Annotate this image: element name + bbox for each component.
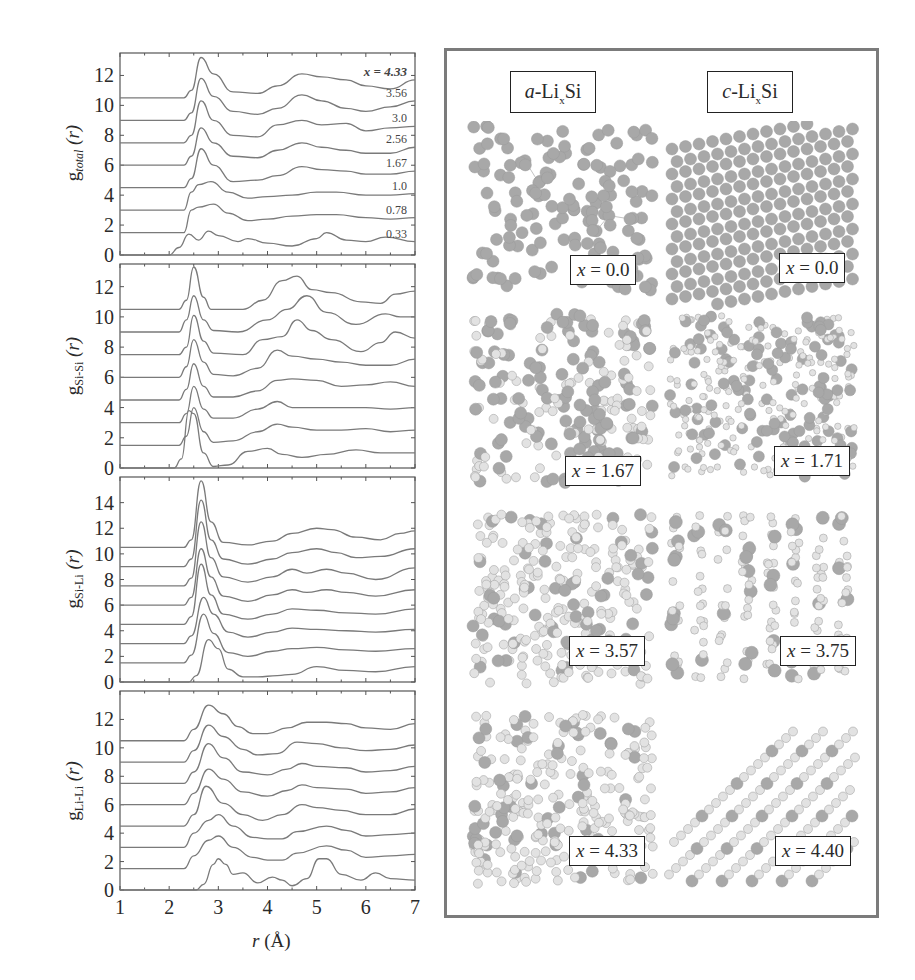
y-tick-label: 10 xyxy=(94,737,114,759)
composition-label: x = 1.67 xyxy=(565,456,641,486)
ylabel-g-li-li: gLi-Li (r) xyxy=(62,746,84,836)
rdf-curve xyxy=(120,640,415,682)
rdf-curve xyxy=(120,296,415,332)
rdf-curve xyxy=(120,836,415,869)
atom-cluster-image xyxy=(662,506,862,696)
structure-amorphous-x1.67: x = 1.67 xyxy=(465,306,665,496)
rdf-curve xyxy=(120,267,415,309)
y-tick-label: 8 xyxy=(104,336,114,358)
rdf-curve xyxy=(120,340,415,378)
rdf-curve xyxy=(120,500,415,567)
rdf-curve xyxy=(120,614,415,663)
y-tick-label: 0 xyxy=(104,879,114,901)
y-tick-label: 4 xyxy=(104,822,114,844)
rdf-curve xyxy=(120,204,415,232)
rdf-curve xyxy=(120,564,415,624)
atom-chains-image xyxy=(662,706,862,896)
composition-label: x = 4.33 xyxy=(569,836,645,866)
y-tick-label: 4 xyxy=(104,620,114,642)
y-tick-label: 12 xyxy=(94,64,114,86)
rdf-curve xyxy=(120,78,415,120)
y-tick-label: 2 xyxy=(104,645,114,667)
composition-curve-label: 3.56 xyxy=(386,86,407,100)
rdf-curve xyxy=(120,522,415,586)
x-tick-label: 2 xyxy=(164,896,174,918)
plot-frame xyxy=(120,264,415,468)
composition-label: x = 4.40 xyxy=(775,836,851,866)
atom-cluster-image xyxy=(465,506,665,696)
composition-curve-label: 2.56 xyxy=(386,132,407,146)
structure-amorphous-x4.33: x = 4.33 xyxy=(465,706,665,896)
rdf-curve xyxy=(120,364,415,400)
y-tick-label: 6 xyxy=(104,794,114,816)
rdf-curve xyxy=(120,411,415,468)
structure-crystalline-x4.40: x = 4.40 xyxy=(662,706,862,896)
composition-label: x = 0.0 xyxy=(570,255,636,285)
rdf-curve xyxy=(120,481,415,548)
y-tick-label: 2 xyxy=(104,851,114,873)
y-tick-label: 10 xyxy=(94,94,114,116)
x-tick-label: 1 xyxy=(115,896,125,918)
y-tick-label: 8 xyxy=(104,765,114,787)
composition-curve-label: 1.67 xyxy=(386,156,407,170)
structure-amorphous-x0: x = 0.0 xyxy=(465,121,665,311)
y-tick-label: 8 xyxy=(104,124,114,146)
y-tick-label: 6 xyxy=(104,594,114,616)
xlabel-r-angstrom: r (Å) xyxy=(252,930,291,952)
composition-label: x = 1.71 xyxy=(774,446,850,476)
y-tick-label: 6 xyxy=(104,154,114,176)
rdf-curve xyxy=(120,705,415,741)
rdf-plots: 024681012x = 4.333.563.02.561.671.00.780… xyxy=(0,0,440,980)
atomic-structures-panel: a-LixSi c-LixSi x = 0.0 x = 0.0 x = 1.67… xyxy=(444,48,879,918)
structure-crystalline-x0: x = 0.0 xyxy=(662,121,862,311)
composition-label: x = 0.0 xyxy=(779,253,845,283)
composition-label: x = 3.57 xyxy=(569,636,645,666)
x-tick-label: 7 xyxy=(410,896,420,918)
rdf-curve xyxy=(120,315,415,354)
rdf-curve xyxy=(120,128,415,165)
y-tick-label: 2 xyxy=(104,214,114,236)
y-tick-label: 4 xyxy=(104,397,114,419)
column-title-crystalline: c-LixSi xyxy=(707,71,793,113)
y-tick-label: 6 xyxy=(104,366,114,388)
y-tick-label: 0 xyxy=(104,457,114,479)
composition-curve-label: x = 4.33 xyxy=(363,64,408,79)
rdf-curve xyxy=(120,725,415,762)
ylabel-g-si-si: gSi-Si (r) xyxy=(62,321,84,411)
rdf-curve xyxy=(120,859,415,890)
rdf-curve xyxy=(120,786,415,826)
rdf-curve xyxy=(120,597,415,643)
x-tick-label: 3 xyxy=(213,896,223,918)
x-tick-label: 6 xyxy=(361,896,371,918)
y-tick-label: 10 xyxy=(94,306,114,328)
ylabel-g-si-li: gSi-Li (r) xyxy=(62,534,84,624)
structure-crystalline-x1.71: x = 1.71 xyxy=(662,306,862,496)
atom-cluster-image xyxy=(465,706,665,896)
composition-curve-label: 1.0 xyxy=(392,179,407,193)
y-tick-label: 12 xyxy=(94,276,114,298)
rdf-curve xyxy=(120,408,415,446)
y-tick-label: 2 xyxy=(104,427,114,449)
y-tick-label: 4 xyxy=(104,184,114,206)
y-tick-label: 10 xyxy=(94,543,114,565)
composition-curve-label: 0.78 xyxy=(386,203,407,217)
y-tick-label: 8 xyxy=(104,569,114,591)
composition-curve-label: 3.0 xyxy=(392,111,407,125)
y-tick-label: 14 xyxy=(94,492,114,514)
composition-curve-label: 0.33 xyxy=(386,227,407,241)
rdf-curve xyxy=(120,744,415,784)
y-tick-label: 0 xyxy=(104,671,114,693)
rdf-curve xyxy=(120,101,415,143)
rdf-curve xyxy=(120,386,415,422)
structure-crystalline-x3.75: x = 3.75 xyxy=(662,506,862,696)
x-tick-label: 4 xyxy=(263,896,273,918)
y-tick-label: 0 xyxy=(104,244,114,266)
x-tick-label: 5 xyxy=(312,896,322,918)
y-tick-label: 12 xyxy=(94,708,114,730)
ylabel-g-total: gtotal (r) xyxy=(62,108,84,198)
structure-amorphous-x3.57: x = 3.57 xyxy=(465,506,665,696)
y-tick-label: 12 xyxy=(94,517,114,539)
rdf-curve xyxy=(120,182,415,210)
column-title-amorphous: a-LixSi xyxy=(510,71,596,113)
composition-label: x = 3.75 xyxy=(780,636,856,666)
